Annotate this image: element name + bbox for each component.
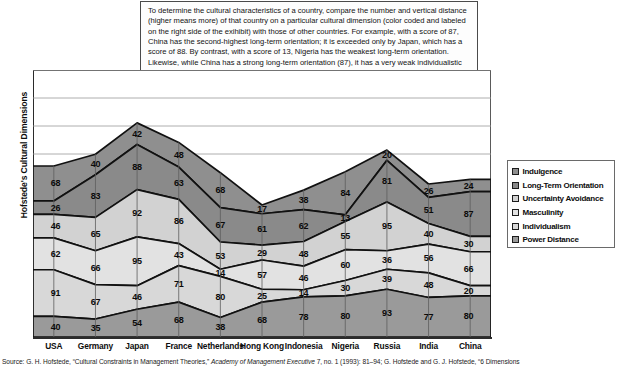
x-axis-label-indonesia: Indonesia (285, 341, 323, 351)
data-value-label: 91 (51, 288, 61, 298)
x-axis-label-germany: Germany (78, 341, 113, 351)
data-value-label: 68 (257, 315, 267, 325)
data-value-label: 95 (132, 256, 142, 266)
data-value-label: 71 (174, 279, 184, 289)
chart-legend: IndulgenceLong-Term OrientationUncertain… (507, 160, 615, 248)
data-value-label: 42 (132, 129, 142, 139)
data-value-label: 66 (464, 264, 474, 274)
source-suffix: 7, no. 1 (1993): 81–94; G. Hofstede and … (315, 358, 520, 365)
data-value-label: 81 (382, 176, 392, 186)
data-value-label: 26 (424, 186, 434, 196)
legend-swatch-icon (512, 182, 519, 189)
x-axis-label-india: India (419, 341, 438, 351)
data-value-label: 39 (382, 274, 392, 284)
data-value-label: 48 (174, 150, 184, 160)
data-value-label: 40 (51, 322, 61, 332)
data-value-label: 60 (340, 260, 350, 270)
legend-swatch-icon (512, 236, 519, 243)
data-value-label: 77 (424, 312, 434, 322)
data-value-label: 17 (257, 204, 267, 214)
x-axis-label-france: France (165, 341, 192, 351)
legend-item-label: Long-Term Orientation (523, 181, 604, 190)
data-value-label: 38 (299, 195, 309, 205)
data-value-label: 56 (424, 253, 434, 263)
data-value-label: 36 (382, 255, 392, 265)
data-value-label: 63 (174, 178, 184, 188)
data-value-label: 46 (51, 221, 61, 231)
data-value-label: 38 (216, 322, 226, 332)
data-value-label: 80 (340, 311, 350, 321)
data-value-label: 92 (132, 208, 142, 218)
x-axis-label-hong-kong: Hong Kong (240, 341, 284, 351)
data-value-label: 66 (91, 263, 101, 273)
x-axis-label-netherlands: Netherlands (197, 341, 244, 351)
data-value-label: 78 (299, 312, 309, 322)
data-value-label: 53 (216, 251, 226, 261)
data-value-label: 62 (51, 249, 61, 259)
data-value-label: 57 (257, 270, 267, 280)
legend-item[interactable]: Power Distance (512, 233, 611, 247)
data-value-label: 68 (174, 315, 184, 325)
x-axis-label-russia: Russia (374, 341, 401, 351)
callout-text: To determine the cultural characteristic… (148, 6, 467, 77)
data-value-label: 83 (91, 191, 101, 201)
data-value-label: 51 (424, 205, 434, 215)
legend-item[interactable]: Long-Term Orientation (512, 179, 611, 193)
x-axis-line (33, 337, 492, 339)
data-value-label: 55 (340, 231, 350, 241)
data-value-label: 13 (340, 213, 350, 223)
data-value-label: 46 (132, 292, 142, 302)
data-value-label: 46 (299, 273, 309, 283)
legend-item[interactable]: Indulgence (512, 165, 611, 179)
data-value-label: 80 (464, 311, 474, 321)
data-value-label: 48 (424, 280, 434, 290)
data-value-label: 43 (174, 250, 184, 260)
data-value-label: 80 (216, 292, 226, 302)
data-value-label: 68 (216, 185, 226, 195)
y-axis-title: Hofstede's Cultural Dimensions (19, 65, 29, 245)
data-value-label: 24 (464, 181, 474, 191)
data-value-label: 67 (216, 220, 226, 230)
data-value-label: 67 (91, 297, 101, 307)
data-value-label: 68 (51, 178, 61, 188)
legend-item[interactable]: Individualism (512, 219, 611, 233)
source-note: Source: G. H. Hofstede, “Cultural Constr… (2, 358, 620, 366)
callout-box: To determine the cultural characteristic… (140, 1, 478, 75)
source-journal: Academy of Management Executive (211, 358, 315, 365)
x-axis-label-nigeria: Nigeria (332, 341, 359, 351)
legend-item[interactable]: Uncertainty Avoidance (512, 192, 611, 206)
chart-plot-area: 4035546838687880937780916746718025143039… (33, 70, 491, 337)
data-value-label: 86 (174, 216, 184, 226)
legend-swatch-icon (512, 209, 519, 216)
x-axis-label-japan: Japan (125, 341, 148, 351)
data-value-label: 95 (382, 221, 392, 231)
x-axis-label-usa: USA (45, 341, 62, 351)
data-value-label: 48 (299, 249, 309, 259)
data-value-label: 29 (257, 248, 267, 258)
data-value-label: 40 (91, 159, 101, 169)
legend-item-label: Masculinity (523, 208, 564, 217)
data-value-label: 65 (91, 229, 101, 239)
legend-item-label: Uncertainty Avoidance (523, 194, 604, 203)
legend-item-label: Indulgence (523, 167, 563, 176)
data-value-label: 40 (424, 229, 434, 239)
data-value-label: 35 (91, 323, 101, 333)
data-value-label: 20 (464, 286, 474, 296)
data-value-label: 14 (216, 268, 226, 278)
legend-swatch-icon (512, 195, 519, 202)
legend-swatch-icon (512, 223, 519, 230)
data-value-label: 87 (464, 209, 474, 219)
data-value-label: 54 (132, 318, 142, 328)
source-prefix: Source: G. H. Hofstede, “Cultural Constr… (2, 358, 211, 365)
legend-item-label: Individualism (523, 222, 571, 231)
data-value-label: 88 (132, 162, 142, 172)
data-value-label: 62 (299, 221, 309, 231)
legend-swatch-icon (512, 168, 519, 175)
data-value-label: 20 (382, 150, 392, 160)
data-value-label: 26 (51, 203, 61, 213)
x-axis-label-china: China (459, 341, 482, 351)
data-value-label: 25 (257, 291, 267, 301)
data-value-label: 93 (382, 308, 392, 318)
legend-item[interactable]: Masculinity (512, 206, 611, 220)
data-value-label: 14 (299, 288, 309, 298)
